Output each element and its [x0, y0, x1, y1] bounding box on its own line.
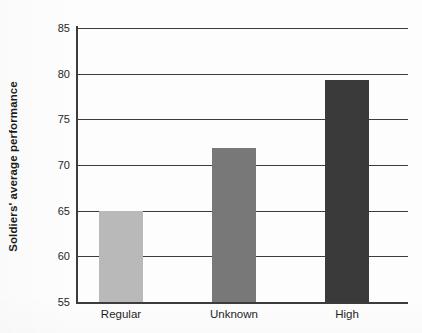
y-axis-tick-label: 60	[40, 250, 70, 262]
bar-regular	[99, 211, 143, 302]
y-axis-tick-label: 80	[40, 68, 70, 80]
x-axis-baseline	[76, 302, 408, 304]
plot-area	[76, 28, 408, 302]
y-axis-title: Soldiers' average performance	[0, 0, 26, 333]
x-axis-tick-label: Regular	[101, 308, 141, 320]
bar-chart-figure: Soldiers' average performance 5560657075…	[0, 0, 422, 333]
bar-high	[325, 80, 369, 302]
y-axis-tick-label: 70	[40, 159, 70, 171]
bar-unknown	[212, 148, 256, 302]
y-axis-tick-label: 85	[40, 22, 70, 34]
y-axis-tick-label: 75	[40, 113, 70, 125]
y-axis-tick-label: 55	[40, 296, 70, 308]
y-axis-tick-label: 65	[40, 205, 70, 217]
gridline	[76, 74, 408, 75]
x-axis-tick-label: Unknown	[210, 308, 258, 320]
x-axis-tick-label: High	[335, 308, 359, 320]
gridline	[76, 28, 408, 29]
